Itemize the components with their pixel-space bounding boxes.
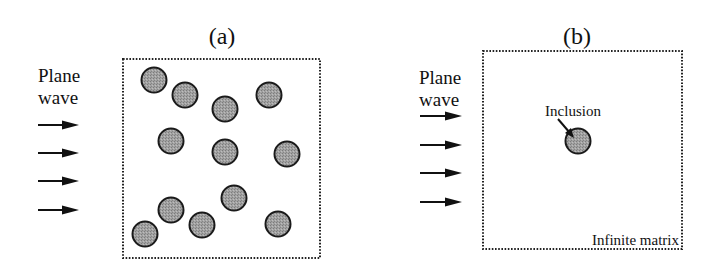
panel-b-arrow-head (445, 141, 462, 150)
inclusion (213, 97, 238, 122)
inclusion (173, 83, 198, 108)
panel-a-arrow-head (62, 177, 79, 186)
panel-a-arrows (38, 121, 79, 215)
inclusion (257, 83, 282, 108)
inclusion (275, 142, 300, 167)
panel-b-title: (b) (563, 23, 591, 49)
infinite-matrix-label: Infinite matrix (592, 232, 680, 248)
panel-a-plane-label: Plane (38, 65, 80, 86)
panel-b-arrow-head (445, 112, 462, 121)
panel-a-arrow-head (62, 149, 79, 158)
panel-b-wave-label: wave (419, 89, 459, 110)
inclusion (190, 213, 215, 238)
panel-b-arrow-head (445, 198, 462, 207)
panel-b-plane-label: Plane (419, 67, 461, 88)
inclusion (133, 222, 158, 247)
inclusion (159, 129, 184, 154)
panel-b: (b) Plane wave Inclusion Infinite matrix (419, 23, 682, 249)
inclusion (159, 198, 184, 223)
panel-a-arrow-head (62, 206, 79, 215)
panel-a-title: (a) (209, 23, 236, 49)
inclusion (266, 212, 291, 237)
panel-b-arrow-head (445, 169, 462, 178)
inclusion (222, 186, 247, 211)
inclusion-label: Inclusion (545, 103, 601, 119)
panel-a-wave-label: wave (38, 87, 78, 108)
panel-b-arrows (420, 112, 462, 207)
panel-a-inclusions (133, 68, 300, 247)
inclusion (142, 68, 167, 93)
diagram-canvas: (a) Plane wave (b) Plane wave Inclusion … (0, 0, 715, 266)
panel-a: (a) Plane wave (38, 23, 320, 258)
panel-a-arrow-head (62, 121, 79, 130)
inclusion (213, 140, 238, 165)
